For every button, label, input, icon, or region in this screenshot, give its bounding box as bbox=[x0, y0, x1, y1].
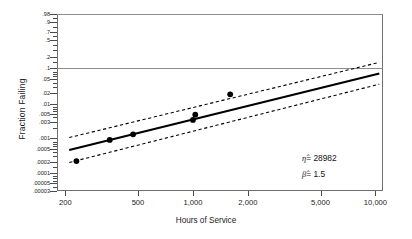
data-point bbox=[192, 112, 198, 118]
y-tick-minor bbox=[53, 181, 57, 182]
y-tick-minor bbox=[53, 72, 57, 73]
y-tick-minor bbox=[53, 83, 57, 84]
y-tick-minor bbox=[53, 187, 57, 188]
y-tick-minor bbox=[53, 142, 57, 143]
y-tick bbox=[50, 40, 57, 41]
y-tick-minor bbox=[53, 36, 57, 37]
y-tick bbox=[50, 68, 57, 69]
y-tick bbox=[50, 79, 57, 80]
y-tick bbox=[50, 183, 57, 184]
annotation-eta: η̂= 28982 bbox=[302, 153, 337, 163]
y-tick-minor bbox=[53, 74, 57, 75]
y-tick-minor bbox=[53, 76, 57, 77]
y-tick bbox=[50, 138, 57, 139]
data-point bbox=[130, 131, 136, 137]
eta-value: 28982 bbox=[313, 153, 336, 163]
y-tick bbox=[50, 57, 57, 58]
y-tick-minor bbox=[53, 146, 57, 147]
y-tick bbox=[50, 93, 57, 94]
data-point bbox=[227, 91, 233, 97]
y-tick-minor bbox=[53, 45, 57, 46]
annotation-beta: β̂= 1.5 bbox=[302, 169, 325, 179]
confidence-bound-lower bbox=[69, 84, 379, 162]
fit-line bbox=[69, 73, 379, 149]
y-tick-minor bbox=[53, 111, 57, 112]
y-tick-minor bbox=[53, 167, 57, 168]
y-tick-minor bbox=[53, 107, 57, 108]
y-tick bbox=[50, 114, 57, 115]
y-tick-minor bbox=[53, 128, 57, 129]
data-point bbox=[74, 158, 80, 164]
data-point bbox=[190, 117, 196, 123]
y-tick-minor bbox=[53, 152, 57, 153]
confidence-bound-upper bbox=[69, 62, 379, 137]
y-tick-minor bbox=[53, 144, 57, 145]
y-tick-minor bbox=[53, 176, 57, 177]
y-tick-minor bbox=[53, 117, 57, 118]
data-point bbox=[107, 137, 113, 143]
y-tick-minor bbox=[53, 62, 57, 63]
y-tick-minor bbox=[53, 156, 57, 157]
y-tick bbox=[50, 22, 57, 23]
y-tick-minor bbox=[53, 178, 57, 179]
y-tick bbox=[50, 122, 57, 123]
y-tick bbox=[50, 32, 57, 33]
y-tick bbox=[50, 162, 57, 163]
data-layer bbox=[0, 0, 412, 239]
y-tick-minor bbox=[53, 50, 57, 51]
y-tick bbox=[50, 14, 57, 15]
y-tick bbox=[50, 173, 57, 174]
beta-equals: = bbox=[306, 169, 311, 179]
y-tick bbox=[50, 191, 57, 192]
y-tick bbox=[50, 104, 57, 105]
eta-equals: = bbox=[306, 153, 311, 163]
y-tick-minor bbox=[53, 18, 57, 19]
weibull-probability-plot: Fraction Failing .98.9.7.5.2.1.05.02.01.… bbox=[0, 0, 412, 239]
y-tick-minor bbox=[53, 87, 57, 88]
y-tick-minor bbox=[53, 109, 57, 110]
y-tick-minor bbox=[53, 27, 57, 28]
beta-value: 1.5 bbox=[313, 169, 325, 179]
y-tick bbox=[50, 149, 57, 150]
